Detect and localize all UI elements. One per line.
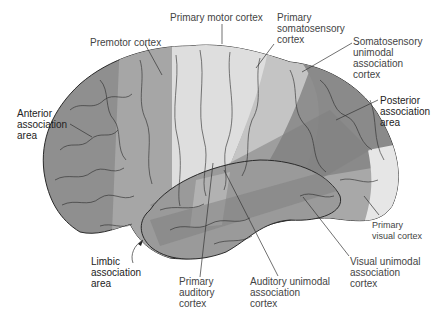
label-limbic-association-area: Limbic association area <box>91 256 141 289</box>
label-visual-unimodal-association-cortex: Visual unimodal association cortex <box>350 256 420 289</box>
label-primary-visual-cortex: Primary visual cortex <box>372 220 422 242</box>
label-primary-auditory-cortex: Primary auditory cortex <box>179 276 215 309</box>
label-posterior-association-area: Posterior association area <box>380 95 430 128</box>
leader-somatosensory-unimodal <box>302 43 352 72</box>
label-premotor-cortex: Premotor cortex <box>90 37 161 48</box>
label-anterior-association-area: Anterior association area <box>17 108 67 141</box>
label-primary-somatosensory-cortex: Primary somatosensory cortex <box>277 12 345 45</box>
label-somatosensory-unimodal-association-cortex: Somatosensory unimodal association corte… <box>353 36 422 80</box>
label-auditory-unimodal-association-cortex: Auditory unimodal association cortex <box>250 276 330 309</box>
label-primary-motor-cortex: Primary motor cortex <box>170 12 263 23</box>
